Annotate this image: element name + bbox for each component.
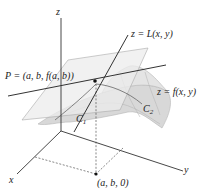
point-P-label: P = (a, b, f(a, b)): [4, 70, 74, 82]
tangent-plane-label: z = L(x, y): [130, 28, 173, 40]
base-point: [94, 172, 97, 175]
x-axis-label: x: [8, 174, 14, 185]
point-P: [93, 79, 97, 83]
base-point-label: (a, b, 0): [97, 177, 129, 189]
z-axis-label: z: [55, 6, 60, 17]
x-axis: [17, 131, 61, 174]
surface-label: z = f(x, y): [156, 86, 197, 98]
y-axis: [61, 131, 183, 171]
tangent-plane-diagram: z y x z = L(x, y) z = f(x, y) P = (a, b,…: [0, 0, 203, 190]
y-axis-label: y: [183, 164, 189, 175]
